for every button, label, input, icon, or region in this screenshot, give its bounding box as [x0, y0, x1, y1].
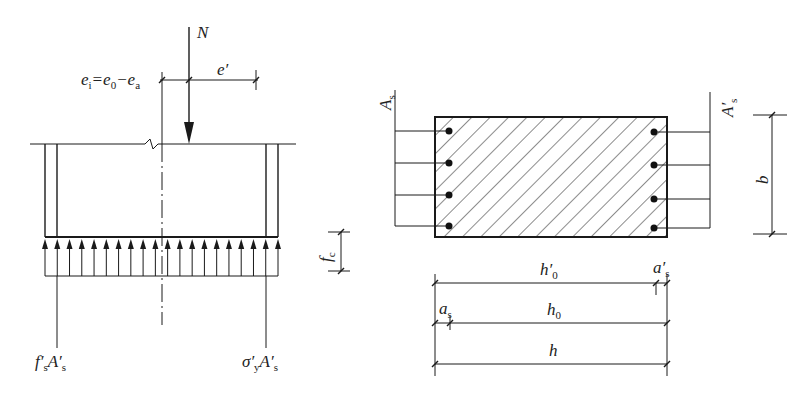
eccentricity-formula: ei=e0−ea: [81, 71, 140, 91]
as-label: as: [439, 300, 452, 320]
As-left-symbol: A: [376, 100, 395, 110]
As-right-symbol: A′: [718, 103, 737, 117]
depth-dimensions: [432, 274, 670, 376]
rebar-dot: [446, 192, 453, 199]
eccentricity-dimension: [159, 70, 259, 90]
As-prime-symbol: A′: [260, 352, 274, 371]
left-steel-label: As: [377, 95, 397, 110]
as-symbol: a: [439, 299, 448, 318]
rebar-dot: [651, 196, 658, 203]
right-steel-label: A′s: [719, 99, 739, 117]
As-left-sub: s: [385, 95, 397, 99]
rebar-dot: [651, 225, 658, 232]
As-right-sub: s: [727, 99, 739, 103]
rebar-dot: [651, 162, 658, 169]
sigma-symbol: σ′: [242, 352, 254, 371]
load-label-N: N: [197, 24, 208, 41]
diagram-canvas: [0, 0, 811, 402]
h0-prime-sub: 0: [552, 269, 558, 281]
h0-sub: 0: [556, 309, 562, 321]
as-prime-label: a′s: [653, 259, 670, 279]
left-force-label: f′sA′s: [35, 353, 66, 373]
right-force-label: σ′yA′s: [242, 353, 278, 373]
h0-symbol: h: [547, 300, 556, 319]
h0-prime-label: h′0: [540, 261, 558, 281]
ea-sub: a: [135, 79, 140, 91]
minus-ea: −e: [116, 70, 135, 89]
e-prime-label: e′: [217, 61, 228, 78]
rebar-dot: [446, 160, 453, 167]
member-elevation: [30, 72, 296, 325]
fc-sub: c: [325, 252, 337, 257]
as-sub: s: [448, 308, 452, 320]
b-label: b: [754, 176, 771, 185]
As-prime-sub: s: [274, 361, 278, 373]
top-break-line: [30, 139, 296, 149]
b-dimension: [753, 112, 787, 237]
cross-section: [435, 117, 667, 237]
fc-symbol: f: [316, 257, 335, 262]
h0-label: h0: [547, 301, 561, 321]
h0-prime-symbol: h′: [540, 260, 552, 279]
h-label: h: [549, 342, 558, 359]
equals-e0: =e: [92, 70, 111, 89]
as-prime-sub: s: [665, 267, 669, 279]
rebar-dot: [446, 223, 453, 230]
as-prime-symbol: a′: [653, 258, 665, 277]
rebar-dot: [446, 128, 453, 135]
As-symbol: A′: [48, 352, 62, 371]
As-sub: s: [62, 361, 66, 373]
concrete-section: [435, 117, 667, 237]
axial-load-arrow: [184, 27, 194, 144]
rebar-dot: [651, 129, 658, 136]
fc-label: fc: [317, 252, 337, 262]
diagram-stage: N ei=e0−ea e′ fc f′sA′s σ′yA′s As A′s b …: [0, 0, 811, 402]
ei-symbol: e: [81, 70, 89, 89]
